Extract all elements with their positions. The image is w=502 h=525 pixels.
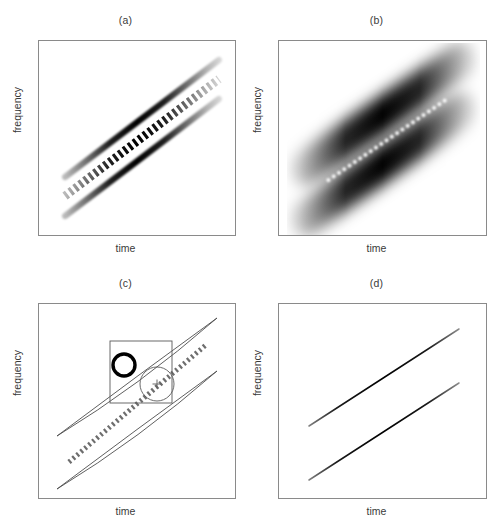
panel-d-plot-area bbox=[278, 303, 487, 499]
panel-d-reassigned-plot bbox=[279, 304, 486, 498]
panel-c-title: (c) bbox=[0, 277, 251, 289]
panel-a-xlabel: time bbox=[0, 242, 251, 254]
panel-d-ylabel: frequency bbox=[251, 328, 263, 418]
panel-d-title: (d) bbox=[251, 277, 502, 289]
chirp-contour-upper bbox=[57, 318, 217, 436]
figure-canvas: (a) frequency bbox=[0, 0, 502, 525]
panel-c-ylabel: frequency bbox=[11, 328, 23, 418]
chirp-contour-lower bbox=[57, 371, 217, 489]
panel-d: (d) frequency bbox=[251, 263, 502, 525]
reassigned-line-upper bbox=[309, 329, 459, 426]
panel-b-xlabel: time bbox=[251, 242, 502, 254]
panel-a-plot-area bbox=[38, 40, 236, 236]
panel-b-title: (b) bbox=[251, 14, 502, 26]
panel-b: (b) frequency bbox=[251, 0, 502, 262]
panel-b-ylabel: frequency bbox=[251, 65, 263, 155]
panel-b-plot-area bbox=[278, 40, 487, 236]
panel-d-xlabel: time bbox=[251, 505, 502, 517]
reassigned-line-lower bbox=[309, 383, 459, 480]
region-rectangle bbox=[110, 341, 172, 403]
panel-a-title: (a) bbox=[0, 14, 251, 26]
panel-a-chirp-plot bbox=[39, 41, 235, 235]
panel-a-ylabel: frequency bbox=[11, 65, 23, 155]
panel-c-xlabel: time bbox=[0, 505, 251, 517]
panel-c: (c) frequency bbox=[0, 263, 251, 525]
panel-c-schematic-plot bbox=[39, 304, 235, 498]
panel-c-plot-area bbox=[38, 303, 236, 499]
circle-center-cross bbox=[153, 380, 162, 389]
panel-a: (a) frequency bbox=[0, 0, 251, 262]
bold-circle-marker bbox=[113, 354, 135, 376]
panel-b-smoothed-plot bbox=[279, 41, 486, 235]
cross-term-oscillation bbox=[65, 79, 219, 196]
